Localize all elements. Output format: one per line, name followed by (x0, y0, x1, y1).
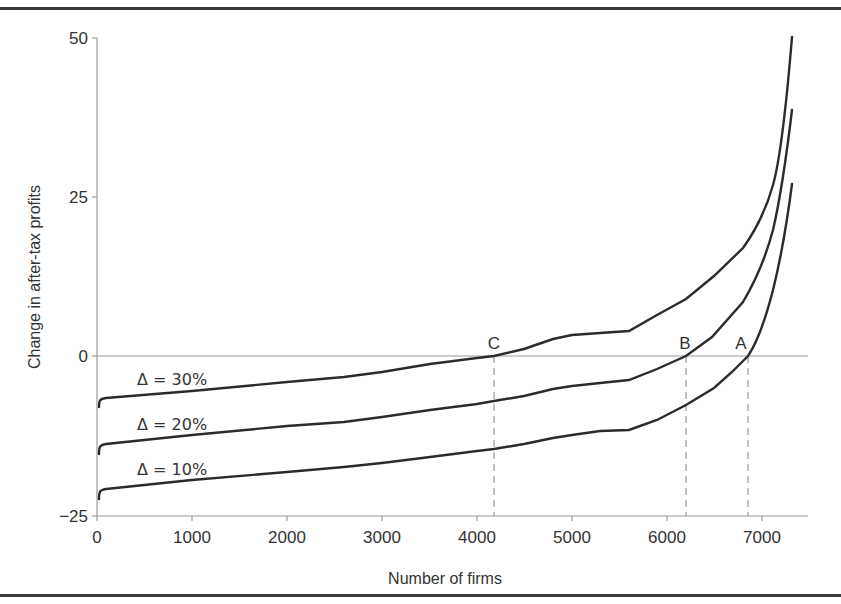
x-tick-5000: 5000 (553, 528, 591, 547)
x-tick-4000: 4000 (458, 528, 496, 547)
point-label-b: B (679, 334, 690, 353)
point-label-c: C (488, 334, 500, 353)
x-tick-2000: 2000 (268, 528, 306, 547)
y-tick-neg25: −25 (59, 507, 88, 526)
curve-label-30: Δ = 30% (137, 370, 207, 389)
curve-label-20: Δ = 20% (137, 415, 207, 434)
y-axis-title: Change in after-tax profits (26, 185, 43, 369)
chart: 50 25 0 −25 0 1000 2000 3000 4000 5000 6… (0, 0, 841, 604)
curve-label-10: Δ = 10% (137, 460, 207, 479)
x-tick-7000: 7000 (743, 528, 781, 547)
x-axis (97, 516, 808, 521)
x-tick-6000: 6000 (648, 528, 686, 547)
y-tick-50: 50 (69, 29, 88, 48)
x-tick-3000: 3000 (363, 528, 401, 547)
x-tick-1000: 1000 (173, 528, 211, 547)
x-tick-0: 0 (92, 528, 101, 547)
y-tick-0: 0 (79, 347, 88, 366)
y-tick-25: 25 (69, 188, 88, 207)
x-axis-title: Number of firms (388, 570, 502, 587)
point-label-a: A (735, 334, 747, 353)
y-axis (92, 38, 97, 516)
